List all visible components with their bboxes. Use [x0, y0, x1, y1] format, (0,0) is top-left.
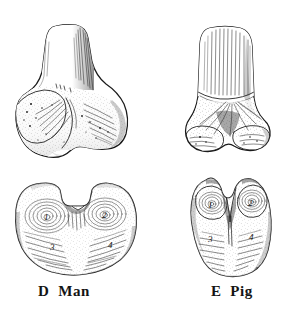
illustration-plate: 1 2 3 4 — [0, 0, 284, 309]
cusp-number-pig-4: 4 — [249, 232, 254, 242]
figure-caption-d-man: D Man — [38, 284, 90, 299]
cusp-number-man-3: 3 — [49, 242, 55, 252]
cusp-number-pig-3: 3 — [207, 234, 213, 244]
cusp-number-pig-2: 2 — [248, 198, 253, 208]
cusp-number-man-2: 2 — [102, 210, 107, 220]
cusp-number-man-4: 4 — [108, 240, 113, 250]
cusp-number-man-1: 1 — [44, 212, 49, 222]
cusp-number-pig-1: 1 — [208, 200, 213, 210]
plate-canvas: 1 2 3 4 — [0, 0, 284, 309]
figure-caption-e-pig: E Pig — [211, 284, 253, 299]
